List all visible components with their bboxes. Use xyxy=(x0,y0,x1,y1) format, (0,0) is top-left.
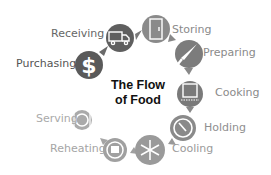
label-purchasing: Purchasing xyxy=(16,58,76,69)
step-purchasing-icon-group: $ xyxy=(75,51,103,79)
diagram-title: The Flow of Food xyxy=(103,78,173,108)
label-receiving: Receiving xyxy=(51,28,104,39)
step-cooking-icon-group xyxy=(177,81,203,107)
dollar-icon: $ xyxy=(81,53,96,78)
label-storing: Storing xyxy=(172,24,212,35)
step-holding-icon-group xyxy=(170,115,196,141)
step-reheating-icon-group xyxy=(103,138,127,162)
label-holding: Holding xyxy=(204,122,246,133)
title-line-2: of Food xyxy=(103,93,173,108)
label-serving: Serving xyxy=(36,113,78,124)
label-preparing: Preparing xyxy=(203,47,256,58)
step-receiving-icon-group xyxy=(106,24,134,52)
label-cooking: Cooking xyxy=(215,87,260,98)
label-cooling: Cooling xyxy=(172,143,213,154)
step-storing-icon-group xyxy=(142,15,170,43)
step-cooling-icon-group xyxy=(135,135,165,165)
label-reheating: Reheating xyxy=(50,143,106,154)
step-preparing-icon-group xyxy=(175,40,203,68)
title-line-1: The Flow xyxy=(103,78,173,93)
